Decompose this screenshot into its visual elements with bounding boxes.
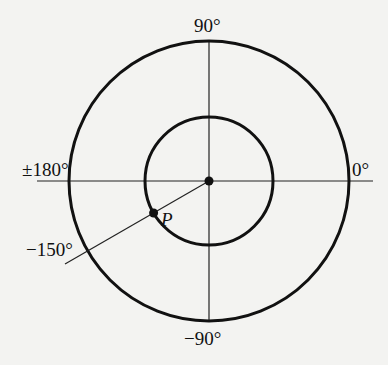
label-plus-minus-180: ±180° — [22, 160, 69, 179]
label-minus-90: −90° — [184, 329, 221, 348]
ray-minus-150 — [65, 181, 209, 264]
label-90: 90° — [194, 16, 221, 35]
point-p — [149, 209, 158, 218]
center-point — [205, 177, 214, 186]
label-point-p: P — [161, 210, 173, 229]
polar-diagram-svg — [0, 0, 388, 365]
label-minus-150: −150° — [26, 240, 73, 259]
label-0: 0° — [352, 160, 369, 179]
polar-diagram-figure: 90° 0° ±180° −150° −90° P — [0, 0, 388, 365]
